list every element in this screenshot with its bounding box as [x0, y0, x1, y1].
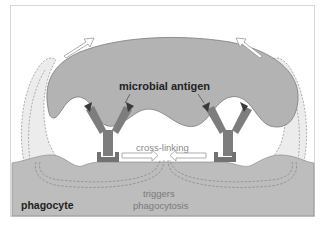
- right-antibody-stem: [223, 130, 233, 156]
- cross-linking-label: cross-linking: [136, 143, 189, 153]
- triggers-label: triggers: [143, 189, 175, 199]
- phagocytosis-label: phagocytosis: [133, 201, 188, 211]
- right-antibody-arm-right: [232, 106, 252, 134]
- right-antibody: [202, 102, 252, 156]
- phagocyte-label: phagocyte: [21, 200, 74, 211]
- right-antibody-arm-left: [206, 106, 226, 134]
- microbial-antigen-label: microbial antigen: [119, 81, 210, 92]
- left-antibody-stem: [103, 130, 113, 156]
